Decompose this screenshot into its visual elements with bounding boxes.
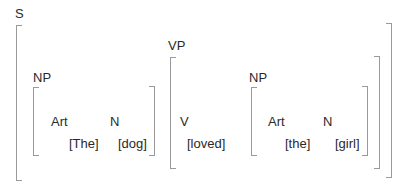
vp-label: VP <box>168 39 185 52</box>
np-object-right-bracket <box>362 86 368 156</box>
np-subject-left-bracket <box>33 87 39 156</box>
vp-v-word: [loved] <box>187 137 225 150</box>
s-label: S <box>15 7 24 20</box>
np-subject-label: NP <box>33 71 51 84</box>
np-object-n-word: [girl] <box>335 137 360 150</box>
np-subject-right-bracket <box>149 86 155 156</box>
s-left-bracket <box>16 25 22 181</box>
np-object-label: NP <box>249 71 267 84</box>
vp-v-label: V <box>180 115 189 128</box>
np-subject-n-label: N <box>110 115 119 128</box>
np-object-art-word: [the] <box>285 137 310 150</box>
np-subject-n-word: [dog] <box>118 137 147 150</box>
vp-left-bracket <box>170 57 176 169</box>
np-object-n-label: N <box>323 115 332 128</box>
np-subject-art-label: Art <box>51 115 68 128</box>
np-object-left-bracket <box>251 87 257 156</box>
np-object-art-label: Art <box>268 115 285 128</box>
np-subject-art-word: [The] <box>69 137 99 150</box>
vp-right-bracket <box>374 56 380 169</box>
s-right-bracket <box>386 23 392 178</box>
